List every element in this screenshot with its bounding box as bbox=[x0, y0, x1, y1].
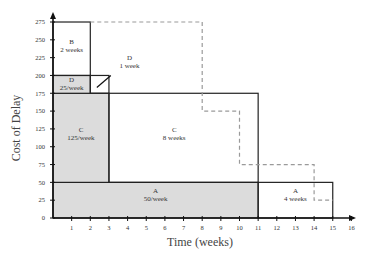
label-c-shaded-value: 125/week bbox=[67, 134, 95, 142]
x-axis-title: Time (weeks) bbox=[167, 235, 233, 249]
y-tick-label: 0 bbox=[42, 214, 45, 221]
y-axis-arrow-icon bbox=[50, 12, 56, 19]
label-b-name: B bbox=[69, 38, 74, 46]
y-tick-label: 175 bbox=[35, 90, 45, 97]
x-tick-label: 7 bbox=[182, 224, 186, 231]
label-d-callout-value: 1 week bbox=[119, 62, 140, 70]
label-c-white-value: 8 weeks bbox=[163, 134, 186, 142]
y-tick-label: 25 bbox=[39, 196, 46, 203]
x-tick-label: 6 bbox=[163, 224, 167, 231]
label-a-white-value: 4 weeks bbox=[284, 195, 307, 203]
x-tick-label: 14 bbox=[311, 224, 318, 231]
x-tick-label: 3 bbox=[107, 224, 110, 231]
y-tick-label: 150 bbox=[35, 107, 45, 114]
y-tick-label: 225 bbox=[35, 54, 45, 61]
y-tick-label: 200 bbox=[35, 72, 45, 79]
x-tick-label: 4 bbox=[126, 224, 130, 231]
x-tick-label: 13 bbox=[292, 224, 299, 231]
label-c-shaded-name: C bbox=[79, 126, 84, 134]
label-d-callout-name: D bbox=[127, 54, 132, 62]
y-axis-title: Cost of Delay bbox=[9, 95, 23, 162]
label-a-shaded-name: A bbox=[153, 187, 158, 195]
x-tick-label: 10 bbox=[236, 224, 243, 231]
x-tick-label: 16 bbox=[348, 224, 355, 231]
x-tick-label: 12 bbox=[274, 224, 281, 231]
label-a-white-name: A bbox=[293, 187, 298, 195]
x-axis-arrow-icon bbox=[349, 215, 356, 221]
y-tick-label: 50 bbox=[39, 179, 46, 186]
label-c-white-name: C bbox=[172, 126, 177, 134]
y-tick-label: 250 bbox=[35, 36, 45, 43]
label-d-shaded-name: D bbox=[69, 76, 74, 84]
label-a-shaded-value: 50/week bbox=[144, 195, 168, 203]
blocks-layer bbox=[53, 22, 333, 218]
y-tick-label: 75 bbox=[39, 161, 46, 168]
x-tick-label: 15 bbox=[330, 224, 337, 231]
dashed-sequence-line bbox=[90, 22, 332, 200]
y-tick-label: 100 bbox=[35, 143, 45, 150]
cost-of-delay-chart: 1234567891011121314151602550751001251501… bbox=[0, 0, 372, 260]
y-tick-label: 275 bbox=[35, 18, 45, 25]
x-tick-label: 1 bbox=[70, 224, 73, 231]
x-tick-label: 5 bbox=[145, 224, 148, 231]
label-b-value: 2 weeks bbox=[60, 46, 83, 54]
x-tick-label: 9 bbox=[219, 224, 222, 231]
x-tick-label: 8 bbox=[201, 224, 204, 231]
label-d-shaded-value: 25/week bbox=[60, 84, 84, 92]
y-tick-label: 125 bbox=[35, 125, 45, 132]
x-tick-label: 2 bbox=[89, 224, 92, 231]
dashed-path bbox=[90, 22, 332, 200]
x-tick-label: 11 bbox=[255, 224, 261, 231]
